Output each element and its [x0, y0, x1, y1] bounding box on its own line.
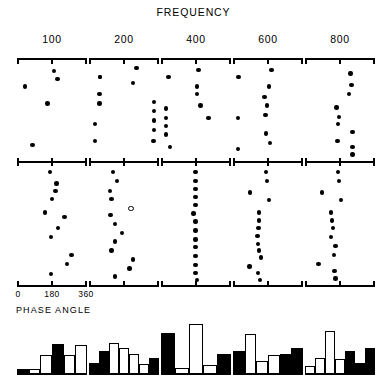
data-point: [151, 139, 155, 143]
data-point: [152, 118, 156, 122]
data-point: [164, 106, 168, 110]
data-point: [193, 228, 197, 232]
histogram-bar: [139, 364, 149, 374]
histogram-bar: [52, 344, 64, 374]
panel-mid-axis: [17, 161, 87, 168]
data-point: [247, 264, 251, 268]
data-point: [337, 115, 341, 119]
histogram-100: [17, 319, 87, 375]
data-point: [198, 103, 202, 107]
data-point: [93, 122, 97, 126]
panel-column-100: [17, 58, 87, 282]
data-point: [131, 81, 135, 85]
panel-bottom-axis: [305, 280, 375, 287]
panel-bottom-axis: [161, 280, 231, 287]
data-point: [236, 147, 240, 151]
axis-tick: [305, 281, 307, 287]
panel-top-axis: [305, 58, 375, 65]
histogram-bar: [40, 355, 52, 374]
axis-tick: [85, 281, 87, 287]
axis-tick: [301, 58, 303, 64]
data-point: [339, 198, 343, 202]
histogram-bar: [325, 331, 335, 374]
data-point: [347, 92, 351, 96]
data-point: [336, 122, 340, 126]
data-point: [113, 239, 117, 243]
data-point: [52, 69, 56, 73]
data-point: [50, 197, 54, 201]
scatter-field-lower: [233, 170, 303, 282]
scatter-field-lower: [89, 170, 159, 282]
axis-tick: [229, 58, 231, 64]
data-point: [111, 170, 115, 174]
data-point: [255, 234, 259, 238]
axis-tick: [195, 158, 197, 166]
data-point: [45, 101, 49, 105]
axis-tick: [267, 58, 269, 64]
histogram-400: [161, 319, 231, 375]
histogram-bar: [233, 351, 245, 374]
scatter-field-upper: [161, 66, 231, 160]
data-point: [236, 116, 240, 120]
data-point: [333, 244, 337, 248]
histogram-bar: [280, 354, 292, 374]
data-point: [336, 170, 340, 174]
data-point: [330, 218, 334, 222]
axis-tick: [195, 58, 197, 64]
data-point: [164, 116, 168, 120]
histogram-bar: [355, 363, 365, 374]
data-point: [248, 190, 252, 194]
data-point: [257, 248, 261, 252]
histogram-bar: [268, 355, 280, 374]
histogram-bar: [291, 348, 303, 374]
histogram-200: [89, 319, 159, 375]
axis-tick: [373, 281, 375, 287]
data-point: [257, 210, 261, 214]
data-point: [259, 255, 263, 259]
panel-bottom-axis: [89, 280, 159, 287]
panel-column-200: [89, 58, 159, 282]
axis-tick: [123, 158, 125, 166]
data-point: [350, 145, 354, 149]
data-point: [109, 248, 113, 252]
data-point: [69, 253, 73, 257]
data-point: [265, 103, 269, 107]
panel-bottom-axis: [233, 280, 303, 287]
data-point: [108, 189, 112, 193]
data-point: [56, 226, 60, 230]
data-point: [128, 206, 134, 212]
data-point: [265, 179, 269, 183]
panel-column-400: [161, 58, 231, 282]
data-point: [193, 254, 197, 258]
axis-tick: [339, 58, 341, 64]
data-point: [268, 141, 272, 145]
data-point: [348, 71, 352, 75]
data-point: [316, 262, 320, 266]
data-point: [256, 226, 260, 230]
data-point: [264, 131, 268, 135]
axis-tick: [373, 58, 375, 64]
histogram-bar: [335, 359, 345, 374]
data-point: [350, 152, 354, 156]
panel-column-600: [233, 58, 303, 282]
axis-tick: [89, 158, 91, 166]
x-tick-180: 180: [44, 289, 59, 299]
histogram-800: [305, 319, 375, 375]
scatter-field-lower: [161, 170, 231, 282]
axis-tick: [85, 158, 87, 166]
data-point: [320, 190, 324, 194]
axis-tick: [161, 281, 163, 287]
histogram-bar: [305, 366, 315, 374]
data-point: [152, 100, 156, 104]
data-point: [152, 109, 156, 113]
scatter-field-upper: [89, 66, 159, 160]
histogram-bar: [203, 365, 217, 374]
data-point: [195, 84, 199, 88]
x-axis-label: PHASE ANGLE: [16, 305, 91, 315]
data-point: [115, 179, 119, 183]
panel-mid-axis: [305, 161, 375, 168]
data-point: [131, 257, 135, 261]
histogram-bar: [89, 363, 99, 374]
histogram-bar: [256, 361, 268, 374]
axis-tick: [161, 58, 163, 64]
